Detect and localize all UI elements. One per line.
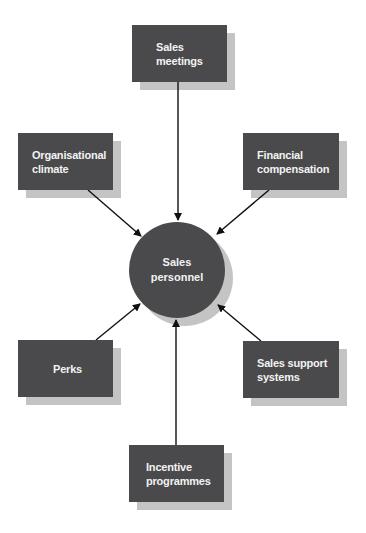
arrow-sales-support-systems [218,305,261,341]
node-label: Perks [53,362,82,376]
node-incentive-programmes: Incentive programmes [129,445,224,502]
node-perks: Perks [18,340,113,397]
center-node-sales-personnel: Sales personnel [129,222,225,318]
node-organisational-climate: Organisational climate [18,133,113,190]
node-sales-support-systems: Sales support systems [243,341,339,398]
node-label: Financial compensation [257,148,329,176]
node-label: Incentive programmes [146,460,211,488]
node-financial-compensation: Financial compensation [243,133,339,190]
arrow-perks [96,304,140,340]
arrow-organisational-climate [88,190,141,236]
node-sales-meetings: Sales meetings [132,25,227,82]
node-label: Organisational climate [32,148,106,176]
arrow-financial-compensation [217,190,269,234]
center-label: Sales personnel [151,255,204,285]
node-label: Sales support systems [257,356,327,384]
node-label: Sales meetings [156,40,203,68]
